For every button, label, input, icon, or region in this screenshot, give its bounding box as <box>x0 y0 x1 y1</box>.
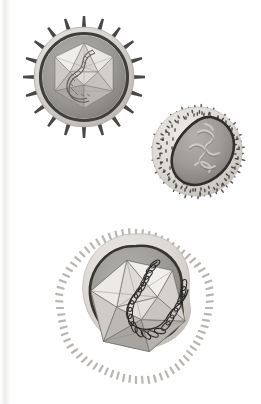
virus-illustration-canvas <box>0 0 261 404</box>
figure-root: Virus particle structure illustration Th… <box>0 0 261 404</box>
